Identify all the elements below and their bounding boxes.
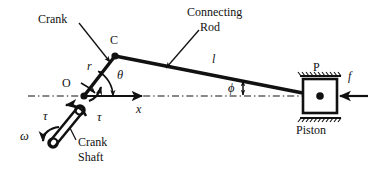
crank-radius-label: r (87, 59, 92, 73)
phi-label: ϕ (228, 81, 235, 95)
connecting-rod-label-line1: Connecting (187, 5, 242, 19)
omega-label: ω (20, 129, 29, 143)
x-axis-label: x (135, 102, 142, 116)
crank-shaft-label-line2: Shaft (78, 150, 104, 164)
crank-shaft-label-line1: Crank (78, 135, 107, 149)
connecting-rod-label-line2: Rod (200, 20, 220, 34)
rod-length-label: l (212, 52, 216, 66)
slider-crank-diagram: Crank Connecting Rod C O r l θ ϕ ω τ τ x… (0, 0, 370, 173)
joint-c-pin (111, 52, 118, 59)
force-f-label: f (348, 69, 353, 83)
crank-label-leader (79, 23, 110, 62)
piston-guide-bottom (298, 118, 341, 122)
tau-right-label: τ (97, 110, 102, 124)
connecting-rod-label-leader (166, 30, 199, 68)
point-o-label: O (62, 76, 71, 90)
theta-label: θ (117, 68, 123, 82)
crank-label: Crank (38, 12, 67, 26)
point-p-label: P (313, 60, 320, 74)
piston-label: Piston (296, 123, 326, 137)
piston-pin-p (316, 92, 324, 100)
point-c-label: C (110, 33, 118, 47)
tau-left-label: τ (43, 109, 48, 123)
mechanism-canvas: Crank Connecting Rod C O r l θ ϕ ω τ τ x… (0, 0, 370, 173)
crank-shaft-leader (70, 128, 76, 140)
connecting-rod-link (115, 56, 318, 96)
